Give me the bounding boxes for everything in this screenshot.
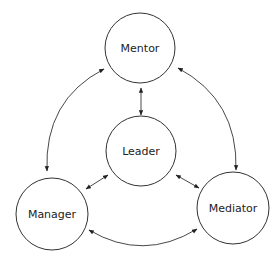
node-manager: Manager — [16, 178, 88, 250]
edge-mentor-mediator — [178, 68, 236, 170]
edge-leader-mediator — [176, 175, 199, 188]
node-leader: Leader — [106, 116, 176, 186]
edge-mentor-manager — [47, 69, 104, 171]
node-label-leader: Leader — [122, 145, 160, 158]
edge-manager-mediator — [89, 229, 197, 246]
node-mentor: Mentor — [105, 13, 175, 83]
role-diagram: Mentor Leader Manager Mediator — [0, 0, 280, 257]
node-label-mediator: Mediator — [209, 202, 258, 215]
node-label-manager: Manager — [28, 208, 77, 221]
edge-leader-manager — [86, 175, 108, 189]
node-label-mentor: Mentor — [121, 42, 160, 55]
node-mediator: Mediator — [197, 172, 269, 244]
